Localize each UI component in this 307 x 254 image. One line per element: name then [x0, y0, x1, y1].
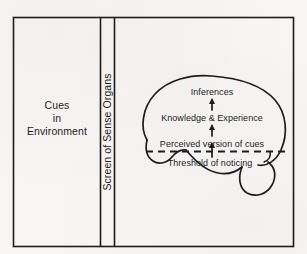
cues-line-1: Cues — [14, 99, 100, 112]
screen-of-sense-organs-label: Screen of Sense Organs — [101, 73, 113, 190]
inferences-label: Inferences — [191, 87, 234, 97]
threshold-leader-line — [264, 152, 270, 162]
perceived-version-of-cues-label: Perceived version of cues — [160, 139, 264, 149]
cues-line-3: Environment — [14, 125, 100, 138]
arrow-knowledge-to-inferences-icon — [209, 98, 215, 110]
knowledge-and-experience-label: Knowledge & Experience — [161, 113, 263, 123]
cues-line-2: in — [14, 112, 100, 125]
threshold-of-noticing-label: Threshold of noticing — [168, 158, 253, 168]
cues-in-environment-label: Cues in Environment — [14, 99, 100, 137]
arrow-perceived-to-knowledge-icon — [209, 124, 215, 136]
figure-canvas: Cues in Environment Screen of Sense Orga… — [0, 0, 307, 254]
screen-of-sense-organs-text: Screen of Sense Organs — [101, 73, 113, 190]
